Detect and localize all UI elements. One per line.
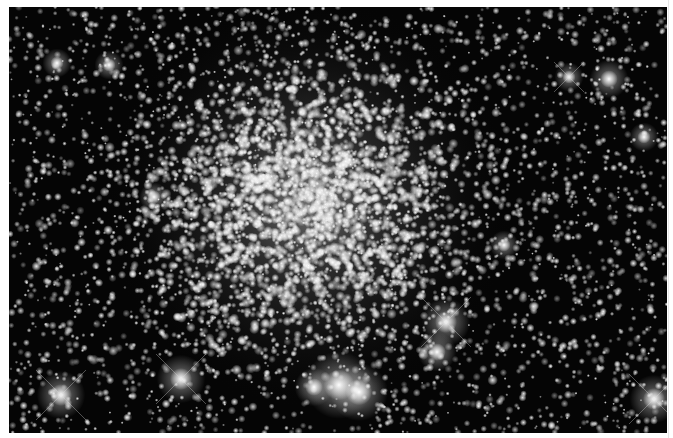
right-edge-divider	[668, 0, 669, 438]
star-field-canvas	[9, 7, 667, 433]
star-cluster-image	[9, 7, 667, 433]
